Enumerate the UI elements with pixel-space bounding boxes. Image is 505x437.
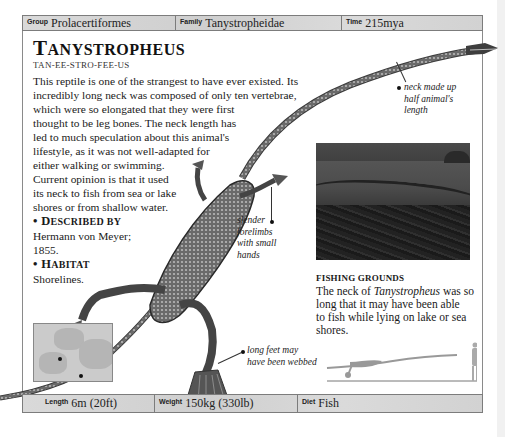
feet-leader-dot — [241, 350, 245, 354]
shoreline-photo — [316, 143, 470, 260]
locator-map — [33, 323, 113, 382]
footer-bar: Length 6m (20ft) Weight 150kg (330lb) Di… — [22, 394, 483, 413]
caption-line: shores. — [316, 324, 474, 337]
body-line: incredibly long neck was composed of onl… — [33, 88, 298, 102]
fossil-site-marker — [58, 357, 62, 361]
caption-line: The neck of Tanystropheus was so — [316, 285, 474, 298]
weight-label: Weight — [159, 398, 182, 405]
body-line: This reptile is one of the strangest to … — [33, 74, 298, 88]
length-cell: Length 6m (20ft) — [23, 395, 155, 412]
caption-line: to fish while lying on lake or sea — [316, 311, 474, 324]
forelimb-annotation: slender forelimbs with small hands — [237, 215, 276, 261]
body-line: led to much speculation about this anima… — [33, 130, 298, 144]
body-line: Current opinion is that it used — [33, 172, 298, 186]
length-value: 6m (20ft) — [71, 396, 117, 411]
diet-label: Diet — [302, 398, 315, 405]
weight-cell: Weight 150kg (330lb) — [155, 395, 298, 412]
habitat-line: Shorelines. — [33, 272, 298, 286]
diet-cell: Diet Fish — [298, 395, 482, 412]
length-label: Length — [45, 398, 68, 405]
body-line: its neck to fish from sea or lake — [33, 186, 298, 200]
body-line: shores or from shallow water. — [33, 200, 298, 214]
weight-value: 150kg (330lb) — [185, 396, 253, 411]
page-title: TANYSTROPHEUS — [33, 36, 185, 61]
body-line: either walking or swimming. — [33, 158, 298, 172]
diet-value: Fish — [318, 396, 339, 411]
caption-line: long that it may have been able — [316, 298, 474, 311]
caption-heading: FISHING GROUNDS — [316, 272, 474, 285]
fossil-site-marker — [79, 374, 83, 378]
body-line: which were so elongated that they were f… — [33, 102, 298, 116]
pronunciation: TAN-EE-STRO-FEE-US — [33, 60, 130, 70]
scale-comparison — [312, 340, 477, 390]
feet-annotation: long feet may have been webbed — [247, 345, 317, 368]
neck-leader-dot — [397, 86, 401, 90]
photo-caption: FISHING GROUNDS The neck of Tanystropheu… — [316, 272, 474, 337]
body-line: thought to be leg bones. The neck length… — [33, 116, 298, 130]
neck-annotation: neck made up half animal's length — [404, 82, 456, 117]
body-line: lifestyle, as it was not well-adapted fo… — [33, 144, 298, 158]
